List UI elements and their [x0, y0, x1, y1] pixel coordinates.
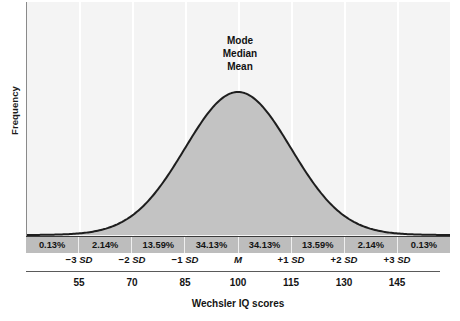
bell-curve-fill — [26, 92, 450, 235]
iq-tick-row: 557085100115130145 — [26, 277, 450, 291]
percentage-cell: 34.13% — [184, 237, 237, 253]
sd-tick-label: +1 SD — [261, 254, 321, 265]
sd-tick-label: −2 SD — [102, 254, 162, 265]
y-axis-title: Frequency — [9, 81, 20, 141]
iq-tick-label: 85 — [155, 277, 215, 288]
sd-tick-label: M — [208, 254, 268, 265]
percentage-cell: 34.13% — [238, 237, 291, 253]
x-axis-rule — [26, 271, 440, 272]
percentage-cell: 13.59% — [131, 237, 184, 253]
y-axis-line — [26, 2, 27, 236]
iq-tick-label: 130 — [314, 277, 374, 288]
percentage-cell: 0.13% — [397, 237, 450, 253]
iq-tick-label: 70 — [102, 277, 162, 288]
sd-tick-label: +3 SD — [367, 254, 427, 265]
iq-tick-label: 55 — [49, 277, 109, 288]
percentage-cell: 2.14% — [344, 237, 397, 253]
percentage-cell: 0.13% — [26, 237, 78, 253]
percentage-cell: 13.59% — [291, 237, 344, 253]
iq-tick-label: 100 — [208, 277, 268, 288]
iq-tick-label: 145 — [367, 277, 427, 288]
x-axis-title: Wechsler IQ scores — [26, 298, 450, 309]
percentage-cell: 2.14% — [78, 237, 131, 253]
sd-tick-label: −1 SD — [155, 254, 215, 265]
sd-tick-label: −3 SD — [49, 254, 109, 265]
iq-tick-label: 115 — [261, 277, 321, 288]
annotation-mode: Mode — [188, 34, 292, 47]
annotation-median: Median — [188, 47, 292, 60]
normal-distribution-figure: Frequency Mode Median Mean 0.13%2.14%13.… — [0, 0, 460, 321]
annotation-mean: Mean — [188, 60, 292, 73]
percentage-band: 0.13%2.14%13.59%34.13%34.13%13.59%2.14%0… — [26, 236, 450, 253]
center-statistics-annotation: Mode Median Mean — [188, 34, 292, 74]
sd-tick-label: +2 SD — [314, 254, 374, 265]
sd-tick-row: −3 SD−2 SD−1 SDM+1 SD+2 SD+3 SD — [26, 254, 450, 268]
